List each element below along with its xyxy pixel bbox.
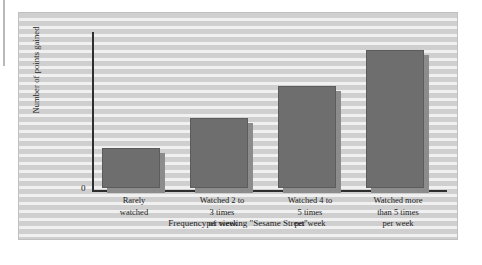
bar[interactable] (278, 86, 336, 188)
bar[interactable] (190, 118, 248, 188)
y-axis-tick-zero: 0 (81, 183, 86, 193)
bar[interactable] (102, 148, 160, 188)
x-axis-category-label-line: Watched 2 to (176, 195, 268, 207)
x-axis-title: Frequency of viewing "Sesame Street" (19, 218, 457, 228)
x-axis-category-label-line: 3 times (176, 207, 268, 219)
chart-figure-frame: Number of points gained 0 RarelywatchedW… (18, 12, 458, 240)
x-axis-category-label-line: Watched more (352, 195, 444, 207)
plot-area: Number of points gained 0 RarelywatchedW… (19, 13, 457, 239)
y-axis-title: Number of points gained (31, 12, 41, 135)
x-axis-category-label-line: than 5 times (352, 207, 444, 219)
bar[interactable] (366, 50, 424, 188)
page-edge-rule (3, 0, 5, 66)
x-axis-category-label-line: 5 times (264, 207, 356, 219)
x-axis-category-label-line: Watched 4 to (264, 195, 356, 207)
x-axis-category-label-line: watched (88, 207, 180, 219)
x-axis-category-label: Rarelywatched (88, 195, 180, 218)
x-axis-category-label-line: Rarely (88, 195, 180, 207)
